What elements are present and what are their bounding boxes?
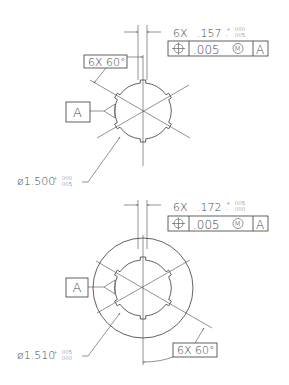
top-angle-leader-2 xyxy=(94,68,106,83)
drawing-canvas: .005 M A 6X .157 + - .000 .005 6X 60° A … xyxy=(0,0,289,385)
bottom-diameter-leader xyxy=(82,313,120,356)
bottom-diameter-value: ø1.510 xyxy=(17,349,55,362)
bottom-datum-triangle xyxy=(104,280,115,294)
top-diameter-value: ø1.500 xyxy=(17,175,55,188)
top-fcf-modifier: M xyxy=(235,45,241,53)
top-diameter-lower-tol: .005 xyxy=(60,181,72,187)
top-fcf-tolerance: .005 xyxy=(193,43,220,57)
top-diagonal-centerline-1 xyxy=(90,80,190,138)
top-width-count: 6X xyxy=(173,27,188,40)
top-width-value: .157 xyxy=(197,27,222,40)
svg-text:-: - xyxy=(53,181,55,187)
top-feature-control-frame: .005 M A xyxy=(168,41,268,57)
top-angle-callout: 6X 60° xyxy=(88,56,126,69)
bottom-width-value: .172 xyxy=(197,201,222,214)
bottom-angle-callout: 6X 60° xyxy=(177,344,215,357)
bottom-width-lower-tol: .000 xyxy=(233,206,245,212)
svg-text:-: - xyxy=(226,206,228,212)
bottom-feature-control-frame: .005 M A xyxy=(168,216,268,232)
top-datum-triangle xyxy=(104,104,115,118)
bottom-diagonal-centerline-1 xyxy=(96,261,212,328)
top-width-lower-tol: .005 xyxy=(233,32,245,38)
bottom-fcf-tolerance: .005 xyxy=(193,218,220,232)
top-fcf-datum: A xyxy=(256,43,264,57)
bottom-angle-leader-2 xyxy=(143,357,173,362)
bottom-fcf-modifier: M xyxy=(235,220,241,228)
position-icon xyxy=(172,218,185,230)
bottom-fcf-datum: A xyxy=(256,218,264,232)
bottom-datum-label: A xyxy=(73,280,82,295)
bottom-angle-leader xyxy=(195,328,204,343)
bottom-spline-view: .005 M A 6X .172 + - .005 .000 6X 60° A … xyxy=(17,200,268,365)
bottom-diameter-lower-tol: .000 xyxy=(60,355,72,361)
bottom-width-count: 6X xyxy=(173,201,188,214)
svg-text:-: - xyxy=(53,355,55,361)
position-icon xyxy=(172,43,185,55)
top-diameter-leader xyxy=(82,137,120,182)
svg-text:-: - xyxy=(226,32,228,38)
top-datum-label: A xyxy=(73,105,82,120)
top-spline-view: .005 M A 6X .157 + - .000 .005 6X 60° A … xyxy=(17,25,268,188)
bottom-diagonal-centerline-2 xyxy=(97,260,190,313)
